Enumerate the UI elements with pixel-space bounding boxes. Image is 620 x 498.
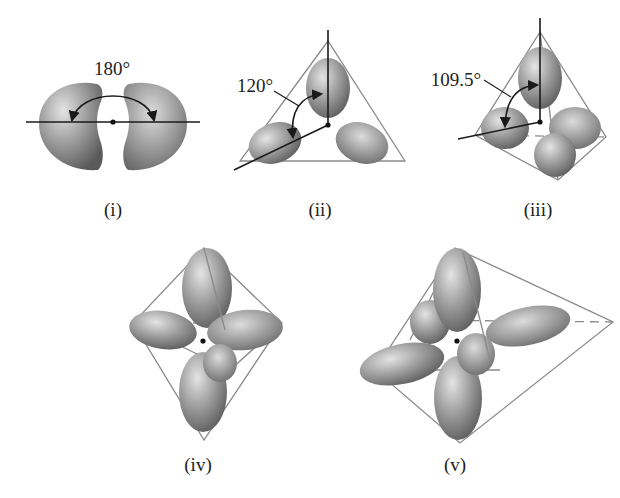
panel-v-octahedral: (v) [356,248,613,476]
lobe-top [433,248,481,332]
panel-iv-trigonal-bipyramidal: (iv) [127,248,285,476]
angle-label: 120° [237,75,273,96]
panel-caption: (iii) [524,199,553,221]
nucleus-dot [200,338,205,343]
panel-caption: (iv) [184,454,211,476]
panel-i-linear: 180° (i) [26,58,200,221]
lobe-bottom [534,133,576,177]
nucleus-dot [325,122,330,127]
nucleus-dot [537,119,542,124]
panel-caption: (i) [104,199,122,221]
angle-leader [484,80,511,97]
lobe-lower-right [330,115,394,171]
panel-caption: (ii) [308,199,331,221]
lobe-left [356,335,448,392]
lobe-left [39,83,103,171]
angle-label: 109.5° [431,69,481,90]
lobe-equatorial-front [203,344,237,382]
angle-leader [274,91,299,106]
panel-ii-trigonal-planar: 120° (ii) [234,30,405,221]
panel-caption: (v) [444,454,466,476]
lobe-left [481,107,529,149]
panel-iii-tetrahedral: 109.5° (iii) [431,18,606,221]
lobe-lower-left [243,115,307,171]
lobe-right [482,298,574,353]
hybrid-orbitals-figure: 180° (i) 120° (ii) 109.5° (iii) [0,0,620,498]
nucleus-dot [110,119,115,124]
lobe-front [457,333,495,375]
lobe-right [123,83,187,171]
angle-label: 180° [94,58,130,79]
nucleus-dot [454,338,459,343]
